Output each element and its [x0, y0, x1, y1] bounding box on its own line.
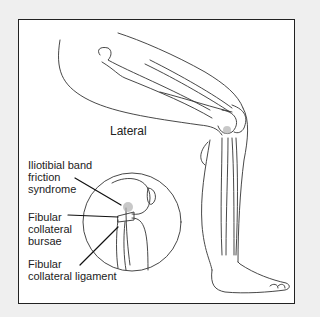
popliteal-line: [201, 142, 208, 165]
inset-tibia: [132, 218, 148, 270]
tibia-line-2: [226, 138, 228, 255]
tibia-line-1: [221, 138, 222, 255]
inset-inflammation-highlight: [123, 202, 133, 212]
label-fibular-collateral-ligament: Fibular collateral ligament: [28, 258, 117, 282]
femur-upper: [98, 47, 210, 110]
calf-outline: [202, 140, 212, 270]
inset-fibula-2: [124, 222, 126, 270]
label-iliotibial-band: Iliotibial band friction syndrome: [28, 159, 92, 195]
inset-circle: [83, 173, 181, 271]
fibula-line-1: [232, 138, 234, 255]
thigh-outline-lower: [58, 40, 222, 135]
inset-ligament: [126, 208, 130, 265]
pointer-bursae: [68, 215, 118, 217]
view-label: Lateral: [110, 125, 147, 137]
thigh-outline-upper: [118, 33, 243, 108]
toes: [270, 284, 285, 288]
label-fibular-collateral-bursae: Fibular collateral bursae: [28, 211, 72, 247]
knee-inflammation-highlight: [223, 126, 231, 134]
shin-front: [238, 108, 248, 262]
fibula-line-2: [236, 138, 238, 255]
